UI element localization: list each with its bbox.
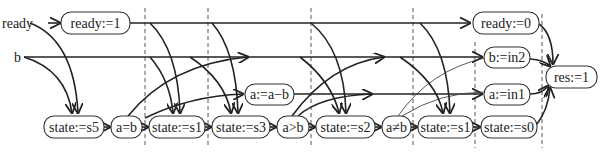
node-state-s1-first: state:=s1 xyxy=(149,116,205,138)
node-state-s3: state:=s3 xyxy=(212,116,270,138)
svg-text:a=b: a=b xyxy=(116,120,137,135)
edges xyxy=(24,23,553,127)
node-state-s2: state:=s2 xyxy=(316,116,375,138)
node-a-not-equal-b: a≠b xyxy=(382,116,411,138)
node-a-minus-b: a:=a−b xyxy=(245,84,294,105)
node-state-s5: state:=s5 xyxy=(44,116,104,138)
svg-text:state:=s3: state:=s3 xyxy=(216,120,266,135)
svg-text:state:=s2: state:=s2 xyxy=(321,120,371,135)
node-ready-set-0: ready:=0 xyxy=(473,12,539,34)
svg-text:ready:=1: ready:=1 xyxy=(71,16,121,31)
node-state-s1-second: state:=s1 xyxy=(418,116,473,138)
svg-text:state:=s1: state:=s1 xyxy=(152,120,202,135)
input-label-ready: ready xyxy=(2,16,33,31)
svg-text:res:=1: res:=1 xyxy=(554,70,589,85)
svg-text:b:=in2: b:=in2 xyxy=(489,50,526,65)
svg-text:a≠b: a≠b xyxy=(386,120,407,135)
node-ready-set-1: ready:=1 xyxy=(61,12,130,34)
schedule-diagram: ready b ready:=1 ready:=0 b:=in2 a:=a−b … xyxy=(0,0,614,157)
node-b-set-in2: b:=in2 xyxy=(484,47,530,68)
svg-text:a:=in1: a:=in1 xyxy=(489,87,525,102)
svg-text:a:=a−b: a:=a−b xyxy=(250,87,289,102)
node-a-equals-b: a=b xyxy=(111,116,142,138)
svg-text:state:=s1: state:=s1 xyxy=(421,120,471,135)
svg-text:a>b: a>b xyxy=(282,120,303,135)
svg-text:ready:=0: ready:=0 xyxy=(481,16,531,31)
svg-text:state:=s5: state:=s5 xyxy=(49,120,99,135)
node-res-set-1: res:=1 xyxy=(546,66,597,88)
node-state-s0: state:=s0 xyxy=(481,116,537,138)
node-a-greater-b: a>b xyxy=(277,116,309,138)
svg-text:state:=s0: state:=s0 xyxy=(484,120,534,135)
input-label-b: b xyxy=(14,50,21,65)
node-a-set-in1: a:=in1 xyxy=(484,84,530,105)
